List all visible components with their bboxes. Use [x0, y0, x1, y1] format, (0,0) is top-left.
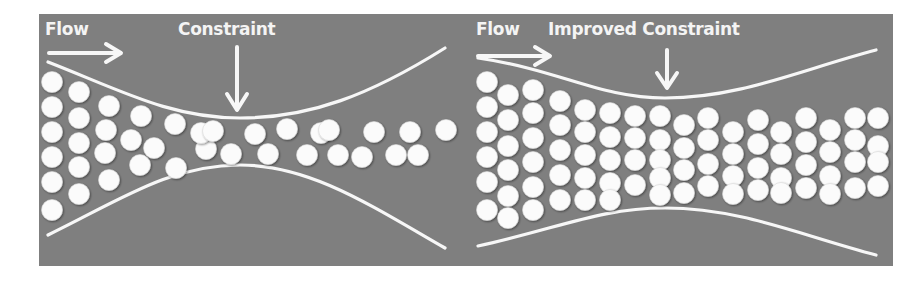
particle [203, 121, 224, 142]
particle [771, 144, 792, 165]
particle [95, 143, 116, 164]
particle [723, 184, 744, 205]
flow-label: Flow [476, 19, 520, 39]
particle [575, 145, 596, 166]
particle [523, 177, 544, 198]
particle [845, 178, 866, 199]
particle [121, 130, 142, 151]
particle [364, 122, 385, 143]
particle [42, 147, 63, 168]
particle [674, 160, 695, 181]
particle [625, 128, 646, 149]
particle [575, 100, 596, 121]
particle [820, 184, 841, 205]
flow-label: Flow [45, 19, 89, 39]
constraint-label: Constraint [178, 19, 276, 39]
particle [42, 172, 63, 193]
particle [723, 144, 744, 165]
particle [42, 200, 63, 221]
particle [221, 144, 242, 165]
particle [69, 157, 90, 178]
particle [748, 180, 769, 201]
particle [523, 128, 544, 149]
particle [498, 186, 519, 207]
particle [386, 145, 407, 166]
particle [277, 119, 298, 140]
particle [319, 120, 340, 141]
particle [408, 145, 429, 166]
particle [796, 108, 817, 129]
particle [650, 106, 671, 127]
particle [42, 72, 63, 93]
particle [498, 85, 519, 106]
particle [650, 130, 671, 151]
particle [523, 103, 544, 124]
particle [868, 108, 889, 129]
particle [820, 142, 841, 163]
particle [352, 147, 373, 168]
particle [498, 110, 519, 131]
particle [96, 120, 117, 141]
particle [674, 138, 695, 159]
particle [69, 133, 90, 154]
particle [258, 144, 279, 165]
particle [674, 183, 695, 204]
particle [600, 190, 621, 211]
flow-constraint-diagram: Flow Constraint Flow Improved Constraint [0, 0, 924, 281]
particle [600, 150, 621, 171]
particle [99, 96, 120, 117]
particle [550, 190, 571, 211]
particle [625, 150, 646, 171]
particle [575, 168, 596, 189]
particle [477, 147, 498, 168]
particle [674, 115, 695, 136]
particle [868, 176, 889, 197]
particle [723, 122, 744, 143]
particle [698, 154, 719, 175]
particle [771, 122, 792, 143]
particle [165, 114, 186, 135]
particle [550, 140, 571, 161]
particle [400, 122, 421, 143]
particle [477, 97, 498, 118]
particle [498, 208, 519, 229]
particle [550, 91, 571, 112]
particle [625, 106, 646, 127]
particle [625, 175, 646, 196]
particle [748, 158, 769, 179]
particle [771, 183, 792, 204]
particle [748, 134, 769, 155]
particle [130, 155, 151, 176]
particle [820, 120, 841, 141]
particle [69, 108, 90, 129]
particle [477, 72, 498, 93]
particle [42, 97, 63, 118]
particle [297, 145, 318, 166]
particle [166, 158, 187, 179]
particle [99, 170, 120, 191]
particle [550, 165, 571, 186]
improved-constraint-label: Improved Constraint [548, 19, 740, 39]
particle [575, 122, 596, 143]
particle [498, 136, 519, 157]
particle [144, 138, 165, 159]
particle [436, 120, 457, 141]
particle [477, 122, 498, 143]
particle [42, 122, 63, 143]
particle [477, 200, 498, 221]
particle [69, 82, 90, 103]
particle [796, 155, 817, 176]
particle [650, 185, 671, 206]
particle [477, 172, 498, 193]
particle [69, 184, 90, 205]
particle [796, 132, 817, 153]
particle [131, 106, 152, 127]
particle [550, 115, 571, 136]
particle [748, 110, 769, 131]
particle [698, 108, 719, 129]
particle [523, 80, 544, 101]
particle [600, 103, 621, 124]
particle [868, 152, 889, 173]
particle [498, 160, 519, 181]
particle [698, 130, 719, 151]
